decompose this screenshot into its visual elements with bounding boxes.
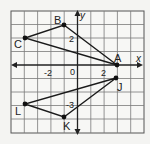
y-axis-label: y [79, 10, 86, 21]
tick-y-pos2: 2 [69, 34, 74, 44]
tick-x-neg2: -2 [44, 68, 52, 78]
label-a: A [114, 52, 122, 64]
coordinate-plane: A B C J K L x y -2 0 2 2 -3 [0, 0, 150, 144]
x-axis-label: x [135, 53, 142, 64]
point-c [23, 36, 28, 41]
tick-origin: 0 [70, 67, 75, 77]
label-j: J [117, 81, 123, 93]
point-k [62, 115, 67, 120]
point-j [114, 76, 119, 81]
label-k: K [63, 120, 71, 132]
point-b [62, 23, 67, 28]
tick-y-neg3: -3 [66, 100, 74, 110]
tick-x-pos2: 2 [101, 68, 106, 78]
label-c: C [14, 38, 22, 50]
label-l: L [15, 105, 21, 117]
label-b: B [54, 14, 61, 26]
point-l [23, 102, 28, 107]
